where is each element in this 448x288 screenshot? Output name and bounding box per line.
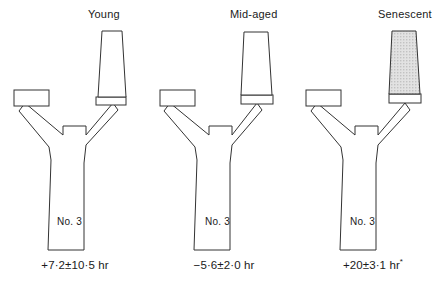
left-terminal-box-young (14, 90, 49, 106)
tall-column-young (98, 31, 126, 97)
stem-body-young (19, 103, 118, 250)
trunk-label-mid-aged: No. 3 (205, 216, 230, 227)
left-terminal-box-senescent (306, 90, 341, 106)
trunk-label-young: No. 3 (57, 216, 82, 227)
panel-senescent: Senescent No. 3 +20±3·1 hr* (298, 0, 448, 288)
caption-marker-senescent: * (400, 257, 403, 266)
trunk-label-senescent: No. 3 (350, 216, 375, 227)
column-collar-young (96, 97, 126, 105)
column-collar-mid-aged (241, 95, 273, 104)
panel-caption-senescent: +20±3·1 hr* (298, 258, 448, 273)
caption-text-young: +7·2±10·5 hr (41, 259, 108, 271)
column-collar-senescent (389, 94, 421, 103)
stem-body-senescent (311, 103, 410, 250)
caption-text-senescent: +20±3·1 hr (343, 259, 400, 271)
stem-body-mid-aged (164, 103, 262, 250)
caption-text-mid-aged: −5·6±2·0 hr (194, 259, 255, 271)
panel-caption-young: +7·2±10·5 hr (0, 258, 150, 273)
tall-column-senescent (389, 31, 420, 94)
panel-young: Young No. 3 +7·2±10·5 hr (0, 0, 150, 288)
tall-column-mid-aged (241, 32, 272, 95)
left-terminal-box-mid-aged (160, 90, 195, 106)
panel-caption-mid-aged: −5·6±2·0 hr (149, 258, 299, 273)
figure-root: Young No. 3 +7·2±10·5 hr Mid-aged (0, 0, 448, 288)
panel-mid-aged: Mid-aged No. 3 −5·6±2·0 hr (149, 0, 299, 288)
